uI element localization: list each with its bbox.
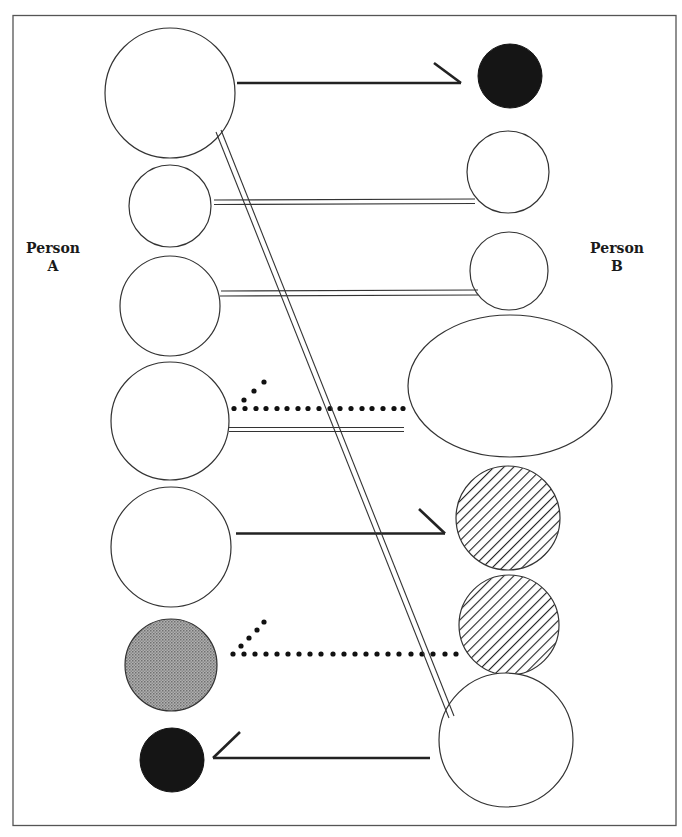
node-b5-hatched bbox=[456, 466, 560, 570]
person-a-label-line1: Person bbox=[18, 239, 88, 257]
person-b-label-line1: Person bbox=[582, 239, 652, 257]
connector-a4-b4-double-line bbox=[229, 428, 404, 432]
node-b4-ellipse bbox=[408, 315, 612, 457]
node-a4 bbox=[111, 362, 229, 480]
person-b-label-line2: B bbox=[582, 257, 652, 275]
connector-b7-a7-solid-arrow bbox=[213, 732, 430, 758]
node-a6-gray bbox=[125, 619, 217, 711]
connector-a3-b3-double-line bbox=[220, 290, 478, 296]
node-a1 bbox=[105, 28, 235, 158]
node-a7-black bbox=[140, 728, 204, 792]
node-a5 bbox=[111, 487, 231, 607]
node-b2 bbox=[467, 131, 549, 213]
connector-a1-b7-diagonal-double-line bbox=[216, 130, 454, 718]
person-b-label: Person B bbox=[582, 239, 652, 275]
connector-a2-b2-double-line bbox=[214, 199, 475, 205]
node-a2 bbox=[129, 165, 211, 247]
person-a-nodes bbox=[105, 28, 235, 792]
node-b1-black bbox=[478, 44, 542, 108]
relationship-diagram bbox=[0, 0, 682, 837]
node-b3 bbox=[470, 232, 548, 310]
connector-a4-b4-dotted-arrow bbox=[231, 379, 405, 411]
node-b7 bbox=[439, 673, 573, 807]
node-a3 bbox=[120, 256, 220, 356]
connector-a5-b5-solid-arrow bbox=[236, 509, 445, 534]
connector-a6-b6-dotted-arrow bbox=[230, 619, 458, 656]
person-a-label: Person A bbox=[18, 239, 88, 275]
connector-a1-b1-solid-arrow bbox=[237, 63, 461, 83]
person-a-label-line2: A bbox=[18, 257, 88, 275]
node-b6-hatched bbox=[459, 575, 559, 675]
